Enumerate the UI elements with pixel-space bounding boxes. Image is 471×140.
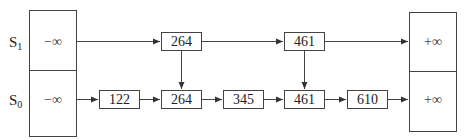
node-s0-345: 345 (224, 91, 264, 109)
right-sentinel-s1: +∞ (424, 34, 442, 49)
svg-text:264: 264 (171, 34, 192, 49)
node-s0-610: 610 (348, 91, 388, 109)
right-sentinel-s0: +∞ (424, 92, 442, 107)
left-sentinel-s0: −∞ (44, 92, 62, 107)
right-sentinel-column: +∞ +∞ (410, 13, 457, 132)
node-s0-264: 264 (162, 91, 202, 109)
skip-list-diagram: S1 S0 −∞ −∞ +∞ +∞ 264 461 122 264 345 (0, 0, 471, 140)
svg-text:345: 345 (233, 92, 254, 107)
node-s1-461: 461 (285, 33, 325, 51)
left-sentinel-column: −∞ −∞ (30, 11, 77, 137)
down-links (182, 51, 305, 89)
node-s0-461: 461 (285, 91, 325, 109)
level-label-s0: S0 (9, 92, 22, 110)
svg-text:461: 461 (294, 92, 315, 107)
node-s1-264: 264 (162, 33, 202, 51)
node-s0-122: 122 (100, 91, 140, 109)
level-label-s1: S1 (9, 34, 22, 52)
svg-text:S1: S1 (9, 34, 22, 52)
svg-text:S0: S0 (9, 92, 22, 110)
svg-text:610: 610 (357, 92, 378, 107)
left-sentinel-s1: −∞ (44, 34, 62, 49)
svg-text:461: 461 (294, 34, 315, 49)
svg-text:122: 122 (109, 92, 130, 107)
svg-text:264: 264 (171, 92, 192, 107)
